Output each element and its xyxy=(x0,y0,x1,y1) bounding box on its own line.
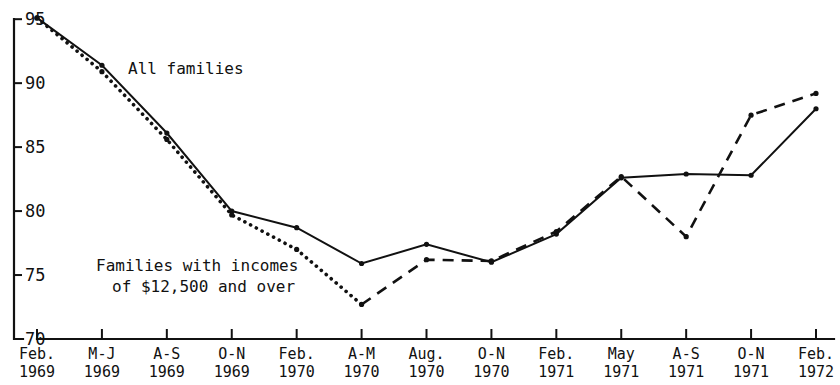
data-point-marker xyxy=(164,130,169,135)
x-tick-label-year: 1969 xyxy=(149,363,185,381)
x-tick-label-year: 1971 xyxy=(733,363,769,381)
data-point-marker xyxy=(229,212,234,217)
data-point-marker xyxy=(34,15,39,20)
x-tick-label-period: May xyxy=(608,345,635,363)
y-tick-label: 90 xyxy=(25,73,45,93)
data-point-marker xyxy=(813,106,818,111)
y-axis-spine xyxy=(14,19,23,339)
data-point-marker xyxy=(99,63,104,68)
x-tick-label-period: O-N xyxy=(478,345,505,363)
x-tick-label-year: 1970 xyxy=(344,363,380,381)
line-chart-figure: 707580859095 Feb.1969M-J1969A-S1969O-N19… xyxy=(0,0,840,385)
y-tick-label: 75 xyxy=(25,265,45,285)
y-tick-label: 80 xyxy=(25,201,45,221)
x-tick-label-period: Feb. xyxy=(279,345,315,363)
x-tick-label-period: Feb. xyxy=(798,345,834,363)
x-tick-label-year: 1969 xyxy=(214,363,250,381)
data-point-marker xyxy=(554,229,559,234)
x-tick-label-year: 1969 xyxy=(19,363,55,381)
x-tick-label-period: A-S xyxy=(153,345,180,363)
data-point-marker xyxy=(99,69,104,74)
x-tick-label-period: Feb. xyxy=(19,345,55,363)
y-axis: 707580859095 xyxy=(14,9,45,349)
data-point-marker xyxy=(489,258,494,263)
chart-annotations: All familiesFamilies with incomesof $12,… xyxy=(96,59,298,296)
data-point-marker xyxy=(748,173,753,178)
data-point-marker xyxy=(619,174,624,179)
data-point-marker xyxy=(359,302,364,307)
x-tick-label-period: Aug. xyxy=(408,345,444,363)
all-families-label: All families xyxy=(128,59,244,78)
x-tick-label-year: 1970 xyxy=(473,363,509,381)
data-point-marker xyxy=(684,234,689,239)
data-point-marker xyxy=(748,113,753,118)
series-path-all-families xyxy=(37,18,816,264)
x-tick-label-period: Feb. xyxy=(538,345,574,363)
x-tick-label-period: O-N xyxy=(738,345,765,363)
x-tick-label-year: 1970 xyxy=(279,363,315,381)
data-point-marker xyxy=(294,247,299,252)
x-tick-label-period: M-J xyxy=(88,345,115,363)
high-income-label-line2: of $12,500 and over xyxy=(112,277,295,296)
data-point-marker xyxy=(424,242,429,247)
data-point-marker xyxy=(164,137,169,142)
x-tick-label-period: A-M xyxy=(348,345,375,363)
x-tick-label-year: 1970 xyxy=(408,363,444,381)
data-point-marker xyxy=(359,261,364,266)
y-tick-label: 85 xyxy=(25,137,45,157)
high-income-label-line1: Families with incomes xyxy=(96,256,298,275)
x-axis: Feb.1969M-J1969A-S1969O-N1969Feb.1970A-M… xyxy=(19,329,834,381)
x-tick-label-year: 1971 xyxy=(603,363,639,381)
x-tick-label-year: 1969 xyxy=(84,363,120,381)
x-tick-label-period: O-N xyxy=(218,345,245,363)
data-point-marker xyxy=(294,225,299,230)
x-tick-label-year: 1972 xyxy=(798,363,834,381)
chart-container: 707580859095 Feb.1969M-J1969A-S1969O-N19… xyxy=(0,0,840,385)
data-point-marker xyxy=(424,257,429,262)
data-point-marker xyxy=(684,171,689,176)
x-tick-label-year: 1971 xyxy=(538,363,574,381)
x-tick-label-year: 1971 xyxy=(668,363,704,381)
data-point-marker xyxy=(813,91,818,96)
x-tick-label-period: A-S xyxy=(673,345,700,363)
series-path-high-income-dashed xyxy=(362,93,816,304)
